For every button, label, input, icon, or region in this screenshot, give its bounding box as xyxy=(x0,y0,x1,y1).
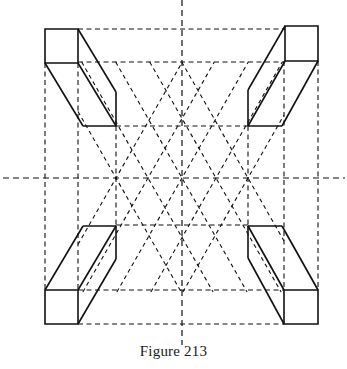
center-axes xyxy=(3,0,345,345)
figure-213-diagram xyxy=(0,0,347,369)
lattice-line xyxy=(150,62,281,292)
box-edge xyxy=(248,258,284,324)
lattice-line xyxy=(183,115,284,292)
box-edge xyxy=(248,26,285,90)
diamond-lattice xyxy=(78,62,284,292)
box-front-face xyxy=(45,29,78,63)
lattice-line xyxy=(116,62,247,292)
bottom-left-box xyxy=(45,226,116,324)
box-front-face xyxy=(284,290,318,324)
lattice-line xyxy=(117,62,248,292)
box-edge xyxy=(248,226,284,290)
box-edge xyxy=(282,61,318,126)
box-edge xyxy=(45,63,83,126)
box-front-face xyxy=(285,26,318,61)
lattice-line xyxy=(83,62,214,292)
bottom-right-box xyxy=(248,226,318,324)
box-edge xyxy=(282,226,318,290)
top-left-box xyxy=(45,29,116,126)
lattice-line xyxy=(82,62,213,292)
box-front-face xyxy=(45,290,78,324)
lattice-line xyxy=(151,62,282,292)
box-edge xyxy=(78,63,116,126)
box-edge xyxy=(78,29,116,92)
box-edge xyxy=(45,226,83,290)
box-edge xyxy=(248,61,285,126)
top-right-box xyxy=(248,26,318,126)
figure-caption: Figure 213 xyxy=(0,343,347,360)
